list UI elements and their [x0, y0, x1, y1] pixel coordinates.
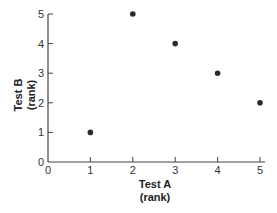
- x-tick-label: 5: [257, 164, 263, 176]
- scatter-chart: 012345 012345 Test A (rank) Test B (rank…: [0, 0, 277, 213]
- axes: [48, 14, 265, 162]
- y-tick-label: 5: [38, 8, 44, 20]
- data-point: [257, 100, 263, 106]
- x-tick-label: 0: [45, 164, 51, 176]
- x-axis-title: Test A: [139, 178, 171, 190]
- x-tick-label: 1: [87, 164, 93, 176]
- y-tick-label: 1: [38, 126, 44, 138]
- data-point: [172, 41, 178, 47]
- y-axis-subtitle: (rank): [25, 79, 37, 110]
- x-axis-subtitle: (rank): [140, 191, 171, 203]
- y-tick-label: 3: [38, 67, 44, 79]
- x-axis-ticks: 012345: [45, 157, 263, 176]
- y-tick-label: 0: [38, 156, 44, 168]
- data-point: [130, 11, 136, 17]
- data-points: [88, 11, 263, 135]
- x-tick-label: 4: [215, 164, 221, 176]
- data-point: [215, 70, 221, 76]
- y-axis-ticks: 012345: [38, 8, 53, 168]
- y-axis-title: Test B: [12, 79, 24, 112]
- y-tick-label: 4: [38, 38, 44, 50]
- x-tick-label: 3: [172, 164, 178, 176]
- data-point: [88, 130, 94, 136]
- x-tick-label: 2: [130, 164, 136, 176]
- y-tick-label: 2: [38, 97, 44, 109]
